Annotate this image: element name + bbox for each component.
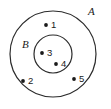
- inner-set-circle-b: [34, 35, 72, 73]
- point-dot-3: [40, 51, 44, 55]
- point-label-3: 3: [47, 47, 52, 58]
- point-dot-2: [21, 79, 25, 83]
- point-label-5: 5: [79, 73, 84, 84]
- venn-diagram-container: A B 1 2 3 4 5: [0, 0, 111, 109]
- point-label-4: 4: [61, 58, 66, 69]
- point-dot-5: [72, 77, 76, 81]
- point-dot-1: [44, 23, 48, 27]
- set-label-b: B: [22, 38, 29, 50]
- point-label-2: 2: [28, 75, 33, 86]
- set-label-a: A: [87, 5, 95, 17]
- venn-diagram-svg: A B 1 2 3 4 5: [0, 0, 111, 109]
- point-label-1: 1: [51, 19, 56, 30]
- point-dot-4: [54, 62, 58, 66]
